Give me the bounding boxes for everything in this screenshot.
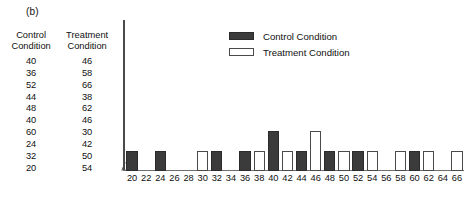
cell-control: 44 bbox=[4, 91, 58, 103]
x-tick-label: 36 bbox=[240, 173, 250, 183]
table-header: Control Condition Treatment Condition bbox=[4, 27, 116, 53]
legend-swatch-treatment-icon bbox=[229, 48, 254, 57]
histogram-bar-control bbox=[268, 131, 279, 171]
histogram-bar-control bbox=[211, 151, 222, 171]
histogram-chart: 2022242628303234363840424446485052545658… bbox=[116, 16, 464, 194]
x-tick-label: 20 bbox=[127, 173, 137, 183]
column-header-control-line2: Condition bbox=[6, 41, 56, 52]
column-header-control-line1: Control bbox=[6, 30, 56, 41]
chart-legend: Control Condition Treatment Condition bbox=[229, 29, 350, 61]
x-axis-tick-labels: 2022242628303234363840424446485052545658… bbox=[125, 173, 464, 189]
histogram-bar-treatment bbox=[282, 151, 293, 171]
table-row: 60 30 bbox=[4, 127, 116, 139]
cell-control: 36 bbox=[4, 68, 58, 80]
legend-label-control: Control Condition bbox=[263, 31, 337, 42]
x-tick-label: 46 bbox=[311, 173, 321, 183]
histogram-bar-control bbox=[352, 151, 363, 171]
x-tick-label: 56 bbox=[381, 173, 391, 183]
histogram-bar-control bbox=[239, 151, 250, 171]
x-tick-label: 58 bbox=[395, 173, 405, 183]
x-tick-label: 26 bbox=[169, 173, 179, 183]
cell-control: 52 bbox=[4, 79, 58, 91]
cell-treatment: 62 bbox=[58, 103, 116, 115]
histogram-bar-treatment bbox=[310, 131, 321, 171]
table-row: 32 50 bbox=[4, 150, 116, 162]
histogram-bar-treatment bbox=[451, 151, 462, 171]
cell-treatment: 38 bbox=[58, 91, 116, 103]
x-tick-label: 24 bbox=[155, 173, 165, 183]
histogram-bar-control bbox=[324, 151, 335, 171]
legend-swatch-control-icon bbox=[229, 32, 254, 41]
cell-treatment: 46 bbox=[58, 53, 116, 68]
x-tick-label: 52 bbox=[353, 173, 363, 183]
cell-treatment: 50 bbox=[58, 150, 116, 162]
x-tick-label: 62 bbox=[424, 173, 434, 183]
cell-treatment: 66 bbox=[58, 79, 116, 91]
table-row: 40 46 bbox=[4, 115, 116, 127]
x-tick-label: 30 bbox=[198, 173, 208, 183]
histogram-bar-control bbox=[126, 151, 137, 171]
column-header-control: Control Condition bbox=[4, 27, 58, 53]
table-row: 24 42 bbox=[4, 139, 116, 151]
legend-label-treatment: Treatment Condition bbox=[263, 47, 350, 58]
panel-label: (b) bbox=[26, 6, 39, 17]
table-row: 20 54 bbox=[4, 162, 116, 174]
histogram-bar-treatment bbox=[395, 151, 406, 171]
histogram-bar-control bbox=[409, 151, 420, 171]
table-header-row: Control Condition Treatment Condition bbox=[4, 27, 116, 53]
column-header-treatment-line2: Condition bbox=[60, 41, 114, 52]
x-tick-label: 42 bbox=[282, 173, 292, 183]
data-table: Control Condition Treatment Condition 40… bbox=[4, 27, 116, 174]
table-row: 40 46 bbox=[4, 53, 116, 68]
column-header-treatment: Treatment Condition bbox=[58, 27, 116, 53]
cell-control: 40 bbox=[4, 115, 58, 127]
table-row: 52 66 bbox=[4, 79, 116, 91]
cell-treatment: 58 bbox=[58, 68, 116, 80]
cell-control: 40 bbox=[4, 53, 58, 68]
x-tick-label: 48 bbox=[325, 173, 335, 183]
histogram-bar-treatment bbox=[254, 151, 265, 171]
table-row: 48 62 bbox=[4, 103, 116, 115]
x-tick-label: 60 bbox=[409, 173, 419, 183]
legend-item-control: Control Condition bbox=[229, 29, 350, 43]
cell-treatment: 46 bbox=[58, 115, 116, 127]
cell-control: 24 bbox=[4, 139, 58, 151]
x-tick-label: 66 bbox=[452, 173, 462, 183]
histogram-bar-treatment bbox=[423, 151, 434, 171]
cell-treatment: 42 bbox=[58, 139, 116, 151]
x-tick-label: 40 bbox=[268, 173, 278, 183]
x-tick-label: 38 bbox=[254, 173, 264, 183]
cell-control: 48 bbox=[4, 103, 58, 115]
x-tick-label: 44 bbox=[296, 173, 306, 183]
x-tick-label: 22 bbox=[141, 173, 151, 183]
cell-control: 32 bbox=[4, 150, 58, 162]
x-tick-label: 54 bbox=[367, 173, 377, 183]
cell-control: 60 bbox=[4, 127, 58, 139]
histogram-bar-control bbox=[155, 151, 166, 171]
x-tick-label: 32 bbox=[212, 173, 222, 183]
x-tick-label: 28 bbox=[183, 173, 193, 183]
histogram-bar-treatment bbox=[367, 151, 378, 171]
legend-item-treatment: Treatment Condition bbox=[229, 45, 350, 59]
table-row: 44 38 bbox=[4, 91, 116, 103]
column-header-treatment-line1: Treatment bbox=[60, 30, 114, 41]
histogram-bar-treatment bbox=[338, 151, 349, 171]
cell-treatment: 30 bbox=[58, 127, 116, 139]
condition-values-table: Control Condition Treatment Condition 40… bbox=[4, 27, 116, 174]
cell-treatment: 54 bbox=[58, 162, 116, 174]
x-tick-label: 50 bbox=[339, 173, 349, 183]
table-row: 36 58 bbox=[4, 68, 116, 80]
histogram-bar-control bbox=[296, 151, 307, 171]
x-tick-label: 64 bbox=[438, 173, 448, 183]
histogram-bar-treatment bbox=[197, 151, 208, 171]
cell-control: 20 bbox=[4, 162, 58, 174]
table-body: 40 46 36 58 52 66 44 38 48 62 40 46 bbox=[4, 53, 116, 174]
x-tick-label: 34 bbox=[226, 173, 236, 183]
